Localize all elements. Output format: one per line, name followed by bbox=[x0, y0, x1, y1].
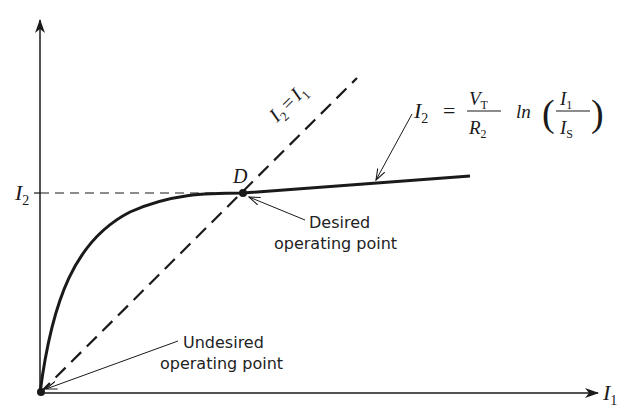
curve-equation: I2 = VT R2 ln ( I1 IS ) bbox=[413, 88, 604, 141]
svg-text:VT: VT bbox=[469, 88, 489, 112]
svg-text:IS: IS bbox=[559, 117, 573, 141]
undesired-label-line1: Undesired bbox=[183, 333, 264, 352]
desired-point-marker bbox=[239, 189, 247, 197]
operating-point-diagram: I1 I2 I2=I1 D I2 = VT R2 ln ( I1 IS ) De… bbox=[0, 0, 637, 412]
svg-text:=: = bbox=[443, 98, 455, 123]
equation-pointer-arrow bbox=[376, 114, 412, 180]
svg-text:I2: I2 bbox=[413, 98, 428, 126]
svg-text:I2=I1: I2=I1 bbox=[264, 79, 314, 129]
undesired-pointer-arrow bbox=[46, 341, 178, 389]
svg-text:R2: R2 bbox=[468, 117, 487, 141]
desired-pointer-arrow bbox=[249, 197, 305, 220]
y-tick-label: I2 bbox=[14, 180, 29, 208]
identity-line-label: I2=I1 bbox=[264, 79, 314, 129]
svg-text:ln: ln bbox=[516, 101, 531, 122]
desired-label-line2: operating point bbox=[274, 234, 397, 253]
undesired-point-marker bbox=[37, 388, 45, 396]
x-axis-label: I1 bbox=[602, 380, 617, 408]
svg-text:): ) bbox=[591, 92, 604, 135]
desired-label-line1: Desired bbox=[309, 213, 370, 232]
svg-text:(: ( bbox=[542, 92, 555, 135]
point-d-label: D bbox=[232, 165, 248, 187]
undesired-label-line2: operating point bbox=[160, 354, 283, 373]
svg-text:I1: I1 bbox=[559, 88, 572, 112]
